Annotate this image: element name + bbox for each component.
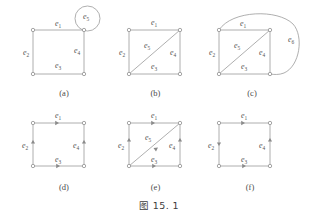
edge-label-e1: e1 (55, 111, 62, 121)
edge-e6-outer-curve (219, 14, 299, 75)
vertex-top-right (178, 121, 181, 124)
edge-label-e5: e5 (83, 12, 90, 22)
panel-a: e1 e2 e3 e4 e5 (a) (22, 8, 122, 100)
vertex-top-left (217, 28, 220, 31)
arrowhead-e4-up (82, 140, 86, 144)
panel-f: e1 e2 e3 e4 (f) (208, 110, 308, 190)
arrowhead-e5-up-right (154, 148, 159, 152)
arrowhead-e1-right (151, 121, 155, 125)
arrowhead-e4-up (178, 138, 182, 142)
edge-label-e3: e3 (151, 155, 158, 165)
edge-label-e3: e3 (55, 61, 62, 71)
edge-label-e1: e1 (151, 111, 158, 121)
panel-d-caption: (d) (14, 182, 114, 192)
panel-b-graph: e1 e2 e3 e4 e5 (118, 8, 213, 86)
vertex-bottom-left (31, 164, 34, 167)
vertex-bottom-right (82, 164, 85, 167)
edge-label-e5: e5 (144, 41, 151, 51)
arrowhead-e1-right (55, 121, 59, 125)
edge-label-e3: e3 (151, 62, 158, 72)
panel-e: e1 e2 e3 e4 e5 (e) (118, 110, 213, 190)
arrowhead-e4-up (268, 138, 272, 142)
edge-label-e1: e1 (241, 111, 248, 121)
edge-label-e4: e4 (170, 48, 177, 58)
vertex-top-right (178, 28, 181, 31)
edge-label-e5: e5 (234, 41, 241, 51)
vertex-top-right (82, 121, 85, 124)
edge-label-e2: e2 (118, 141, 125, 151)
edge-label-e4: e4 (259, 48, 266, 58)
vertex-bottom-right (82, 72, 85, 75)
panel-c-caption: (c) (198, 88, 306, 98)
arrowhead-e1-right (241, 121, 245, 125)
vertex-top-left (31, 28, 34, 31)
vertex-top-right (268, 28, 271, 31)
edge-label-e2: e2 (119, 48, 126, 58)
arrowhead-e2-up (127, 138, 131, 142)
panel-c-graph: e1 e2 e3 e4 e5 e6 (208, 8, 316, 86)
vertex-bottom-right (268, 72, 271, 75)
vertex-top-right (82, 28, 85, 31)
vertex-top-left (217, 121, 220, 124)
edge-label-e5: e5 (145, 133, 152, 143)
arrowhead-e2-up (31, 140, 35, 144)
edge-label-e6: e6 (288, 35, 295, 45)
panel-c: e1 e2 e3 e4 e5 e6 (c) (208, 8, 316, 100)
vertex-top-right (268, 121, 271, 124)
panel-e-caption: (e) (108, 182, 203, 192)
edge-label-e3: e3 (55, 155, 62, 165)
edge-label-e2: e2 (23, 48, 30, 58)
vertex-top-left (31, 121, 34, 124)
vertex-bottom-left (31, 72, 34, 75)
figure-caption: 图 15. 1 (0, 198, 318, 212)
edge-label-e2: e2 (208, 141, 215, 151)
edge-label-e4: e4 (169, 141, 176, 151)
vertex-top-left (127, 28, 130, 31)
panel-a-graph: e1 e2 e3 e4 e5 (22, 8, 122, 86)
vertex-bottom-left (127, 72, 130, 75)
edge-label-e1: e1 (240, 19, 247, 29)
edge-label-e4: e4 (74, 46, 81, 56)
edge-label-e1: e1 (151, 18, 158, 28)
vertex-bottom-right (178, 164, 181, 167)
arrowhead-e2-down (217, 142, 221, 146)
edge-label-e2: e2 (209, 48, 216, 58)
vertex-bottom-right (178, 72, 181, 75)
panel-d: e1 e2 e3 e4 (d) (22, 110, 122, 190)
panel-b-caption: (b) (108, 88, 203, 98)
panel-d-graph: e1 e2 e3 e4 (22, 110, 122, 180)
edge-label-e4: e4 (259, 141, 266, 151)
edge-label-e3: e3 (241, 155, 248, 165)
vertex-top-left (127, 121, 130, 124)
edge-label-e4: e4 (73, 141, 80, 151)
vertex-bottom-left (217, 164, 220, 167)
panel-a-caption: (a) (14, 88, 114, 98)
panel-f-caption: (f) (200, 182, 300, 192)
vertex-bottom-left (127, 164, 130, 167)
panel-b: e1 e2 e3 e4 e5 (b) (118, 8, 213, 100)
panel-e-graph: e1 e2 e3 e4 e5 (118, 110, 213, 180)
vertex-bottom-left (217, 72, 220, 75)
edge-label-e1: e1 (55, 19, 62, 29)
edge-label-e2: e2 (22, 141, 29, 151)
vertex-bottom-right (268, 164, 271, 167)
figure-15-1: e1 e2 e3 e4 e5 (a) e1 e2 e3 e4 e5 (b) (0, 0, 318, 220)
panel-f-graph: e1 e2 e3 e4 (208, 110, 308, 180)
edge-label-e3: e3 (241, 62, 248, 72)
